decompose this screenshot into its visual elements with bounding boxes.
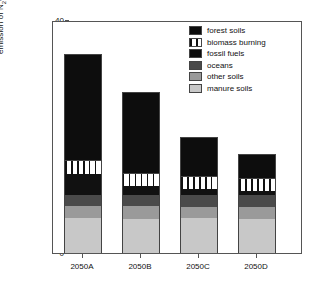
bar-segment-biomass-burning [238, 178, 276, 191]
bar-segment-oceans [64, 195, 102, 207]
swatch-darkgray-icon [189, 61, 202, 70]
bar-segment-forest-soils [238, 154, 276, 178]
swatch-black-icon [189, 26, 202, 35]
bar-segment-other-soils [238, 207, 276, 219]
swatch-lightgray-icon [189, 84, 202, 93]
x-tick-label-2050D: 2050D [221, 262, 291, 271]
bar-segment-other-soils [64, 206, 102, 218]
x-tick-mark-0 [82, 254, 83, 258]
legend-label: other soils [207, 72, 243, 81]
legend-item-other-soils: other soils [189, 71, 301, 83]
y-axis-title-post: O (in Tg/yr) [0, 0, 5, 1]
legend-item-oceans: oceans [189, 60, 301, 72]
bar-segment-forest-soils [64, 54, 102, 159]
bar-segment-biomass-burning [122, 173, 160, 186]
legend-label: oceans [207, 61, 233, 70]
chart-figure: emission of N2O (in Tg/yr) 40 36 32 28 2… [0, 0, 320, 296]
legend-label: manure soils [207, 84, 252, 93]
bar-segment-forest-soils [122, 92, 160, 172]
chart-legend: forest soilsbiomass burningfossil fuelso… [185, 22, 303, 96]
bar-segment-manure-soils [238, 219, 276, 253]
bar-segment-biomass-burning [180, 176, 218, 189]
bar-2050D [238, 154, 276, 253]
swatch-striped-icon [189, 38, 202, 47]
swatch-gray-icon [189, 72, 202, 81]
y-axis-title: emission of N2O (in Tg/yr) [0, 0, 7, 54]
bar-segment-forest-soils [180, 137, 218, 177]
x-tick-mark-2 [198, 254, 199, 258]
bar-segment-fossil-fuels [64, 174, 102, 194]
x-tick-mark-3 [256, 254, 257, 258]
bar-2050A [64, 54, 102, 253]
bar-segment-biomass-burning [64, 160, 102, 175]
bar-segment-manure-soils [122, 219, 160, 253]
legend-label: biomass burning [207, 38, 266, 47]
bar-segment-manure-soils [180, 218, 218, 253]
bar-segment-other-soils [180, 207, 218, 218]
bar-segment-other-soils [122, 206, 160, 218]
bar-segment-oceans [122, 195, 160, 207]
legend-item-forest-soils: forest soils [189, 25, 301, 37]
legend-item-manure-soils: manure soils [189, 83, 301, 95]
legend-label: forest soils [207, 26, 245, 35]
legend-label: fossil fuels [207, 49, 244, 58]
y-axis-title-pre: emission of N [0, 4, 5, 54]
bar-segment-oceans [180, 195, 218, 207]
bar-2050B [122, 92, 160, 253]
legend-item-biomass-burning: biomass burning [189, 37, 301, 49]
x-tick-mark-1 [140, 254, 141, 258]
legend-item-fossil-fuels: fossil fuels [189, 48, 301, 60]
bar-segment-manure-soils [64, 218, 102, 253]
y-axis-title-sub: 2 [1, 1, 7, 4]
bar-segment-fossil-fuels [122, 186, 160, 195]
bar-2050C [180, 137, 218, 253]
bar-segment-oceans [238, 195, 276, 207]
swatch-black-icon [189, 49, 202, 58]
